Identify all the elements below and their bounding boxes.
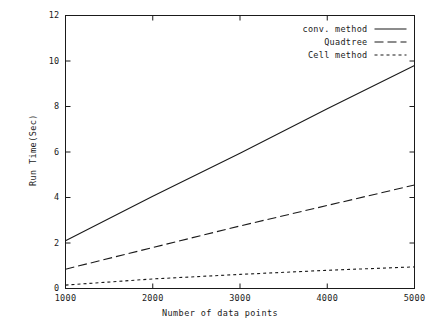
y-tick-label: 2 xyxy=(54,239,59,248)
y-axis-title: Run Time(Sec) xyxy=(28,114,38,186)
y-tick-label: 0 xyxy=(54,284,59,293)
legend-item-label: Quadtree xyxy=(324,37,367,47)
y-tick-label: 6 xyxy=(54,148,59,157)
legend-item-label: conv. method xyxy=(302,24,367,34)
legend-line-sample-0 xyxy=(374,25,408,33)
x-axis-title: Number of data points xyxy=(0,308,440,318)
legend-item-label: Cell method xyxy=(308,50,368,60)
x-tick-label: 4000 xyxy=(297,294,357,303)
x-tick-label: 1000 xyxy=(36,294,96,303)
data-series-group xyxy=(66,66,415,286)
x-tick-label: 5000 xyxy=(385,294,440,303)
y-tick-label: 4 xyxy=(54,193,59,202)
x-tick-label: 3000 xyxy=(210,294,270,303)
x-tick-label: 2000 xyxy=(123,294,183,303)
legend-line-sample-2 xyxy=(374,51,408,59)
y-tick-label: 12 xyxy=(49,11,60,20)
legend-item-2: Cell method xyxy=(308,50,408,61)
y-tick-label: 10 xyxy=(49,57,60,66)
chart-figure: 024681012 10002000300040005000 Run Time(… xyxy=(0,0,440,320)
plot-canvas xyxy=(0,0,440,320)
legend-item-0: conv. method xyxy=(302,24,407,35)
legend-item-1: Quadtree xyxy=(324,37,407,48)
series-line-2 xyxy=(66,267,415,285)
series-line-0 xyxy=(66,66,415,241)
series-line-1 xyxy=(66,185,415,269)
y-tick-label: 8 xyxy=(54,102,59,111)
legend-line-sample-1 xyxy=(374,38,408,46)
